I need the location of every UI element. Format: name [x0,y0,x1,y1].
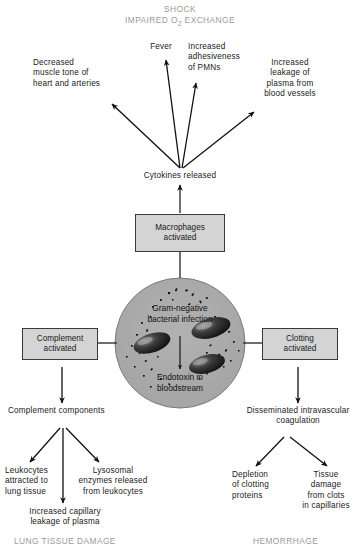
sepsis-pathophysiology-diagram: SHOCK IMPAIRED O2 EXCHANGE Decreased mus… [0,0,360,555]
impaired-o2-pre: IMPAIRED O [125,15,178,25]
arrow-cytokines-to-fever [166,60,180,168]
label-increased-capillary-leakage: Increased capillary leakage of plasma [20,507,110,528]
arrow-cytokines-to-muscle-tone [112,104,180,168]
label-lysosomal-enzymes: Lysosomal enzymes released from leukocyt… [70,466,156,497]
arrow-dic-to-depletion [256,437,284,466]
label-increased-leakage: Increased leakage of plasma from blood v… [253,58,327,100]
box-macrophages-activated[interactable]: Macrophages activated [135,214,225,252]
arrow-components-to-leukocytes [30,428,60,462]
label-fever: Fever [135,42,187,52]
label-decreased-muscle-tone: Decreased muscle tone of heart and arter… [33,58,141,89]
outcome-hemorrhage: HEMORRHAGE [253,536,360,547]
label-dic: Disseminated intravascular coagulation [228,406,360,427]
circle-label-endotoxin: Endotoxin in bloodstream [115,372,245,393]
arrow-cytokines-to-leakage [183,112,254,168]
outcome-lung-tissue-damage: LUNG TISSUE DAMAGE [14,536,174,547]
arrow-components-to-lysosomal [66,428,99,462]
impaired-o2-post: EXCHANGE [182,15,235,25]
arrow-dic-to-tissue-damage [290,437,327,466]
outcome-shock: SHOCK [110,4,250,15]
label-complement-components: Complement components [8,406,143,416]
label-leukocytes-attracted: Leukocytes attracted to lung tissue [5,466,67,497]
label-tissue-damage-clots: Tissue damage from clots in capillaries [295,470,357,512]
label-depletion-clotting: Depletion of clotting proteins [232,470,294,501]
label-increased-adhesiveness: Increased adhesiveness of PMNs [188,42,260,73]
box-complement-activated[interactable]: Complement activated [22,328,98,360]
box-clotting-activated[interactable]: Clotting activated [262,328,338,360]
circle-label-gram-negative: Gram-negative bacterial infection [115,303,245,324]
outcome-impaired-o2-exchange: IMPAIRED O2 EXCHANGE [85,15,275,29]
arrow-cytokines-to-adhesiveness [182,83,196,168]
label-cytokines-released: Cytokines released [120,171,240,181]
